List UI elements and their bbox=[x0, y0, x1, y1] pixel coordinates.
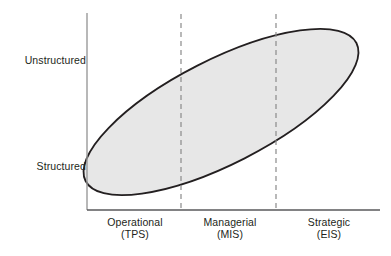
x-axis-label-operational-line1: Operational bbox=[107, 216, 162, 228]
x-axis-label-operational: Operational (TPS) bbox=[87, 216, 183, 240]
x-axis-label-managerial: Managerial (MIS) bbox=[182, 216, 278, 240]
x-axis-label-managerial-line1: Managerial bbox=[204, 216, 257, 228]
x-axis-label-managerial-line2: (MIS) bbox=[182, 228, 278, 240]
x-axis-label-strategic: Strategic (EIS) bbox=[281, 216, 377, 240]
x-axis-label-strategic-line1: Strategic bbox=[308, 216, 350, 228]
y-axis-label-unstructured: Unstructured bbox=[25, 54, 86, 66]
decision-structure-ellipse bbox=[62, 0, 380, 227]
diagram-canvas: Unstructured Structured Operational (TPS… bbox=[0, 0, 391, 256]
x-axis-label-strategic-line2: (EIS) bbox=[281, 228, 377, 240]
x-axis-label-operational-line2: (TPS) bbox=[87, 228, 183, 240]
y-axis-label-structured: Structured bbox=[37, 160, 86, 172]
